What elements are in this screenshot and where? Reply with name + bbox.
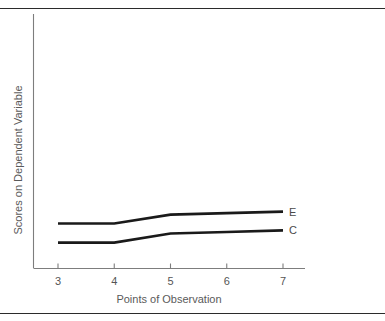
x-axis-tick-label: 6: [224, 275, 230, 287]
series-line-c: [58, 230, 283, 242]
series-line-e: [58, 212, 283, 224]
series-label-e: E: [289, 206, 296, 218]
series-lines-group: [58, 212, 283, 243]
x-axis-tick-label: 7: [280, 275, 286, 287]
series-labels-group: EC: [289, 206, 297, 237]
x-axis-tick-label: 4: [111, 275, 117, 287]
figure-container: 34567 EC Points of Observation Scores on…: [0, 0, 385, 321]
x-axis-title: Points of Observation: [116, 293, 221, 305]
line-chart: 34567 EC Points of Observation Scores on…: [0, 0, 385, 321]
x-axis-tick-label: 3: [55, 275, 61, 287]
series-label-c: C: [289, 224, 297, 236]
x-axis-tick-labels: 34567: [55, 275, 286, 287]
x-axis-ticks: [58, 264, 283, 269]
y-axis-title: Scores on Dependent Variable: [12, 85, 24, 234]
x-axis-tick-label: 5: [167, 275, 173, 287]
